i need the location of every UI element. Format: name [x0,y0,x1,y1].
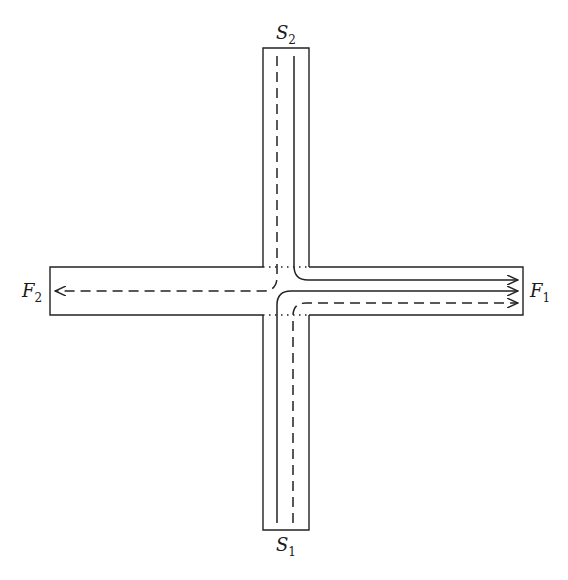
flow-s1-to-f1-solid [277,291,518,523]
flow-s2-to-f1-solid [294,56,518,280]
flow-s2-to-f2-dashed [55,56,277,291]
label-s1: S1 [276,534,296,559]
cross-diagram [0,0,568,580]
label-s2: S2 [276,22,296,47]
label-f2: F2 [22,280,42,305]
label-f1: F1 [530,280,550,305]
flow-s1-to-f1-dashed [293,303,518,523]
channel-outline [50,48,523,530]
